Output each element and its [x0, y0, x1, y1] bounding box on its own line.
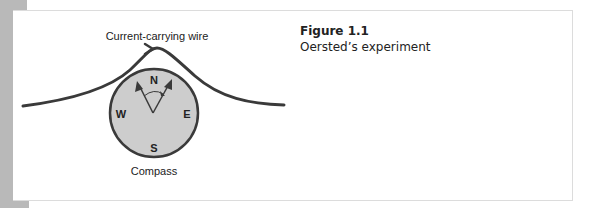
figure-title: Oersted’s experiment: [300, 39, 431, 55]
compass-south-label: S: [150, 142, 157, 154]
figure-number: Figure 1.1: [300, 23, 431, 39]
compass-north-label: N: [150, 74, 158, 86]
figure-caption: Figure 1.1 Oersted’s experiment: [300, 23, 431, 55]
compass-label: Compass: [131, 165, 178, 177]
current-direction-arrow-icon: [145, 44, 153, 54]
oersted-diagram: Current-carrying wire N S W E Compass: [0, 0, 591, 208]
compass: N S W E: [110, 69, 198, 157]
compass-east-label: E: [183, 108, 190, 120]
wire-label: Current-carrying wire: [106, 30, 209, 42]
compass-west-label: W: [116, 108, 127, 120]
